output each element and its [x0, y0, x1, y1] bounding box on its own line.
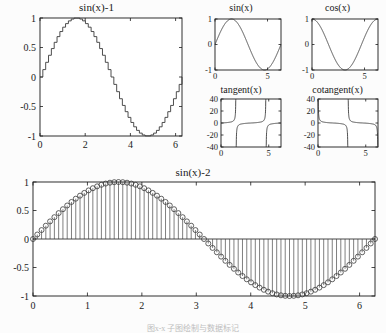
svg-text:5: 5 [267, 148, 271, 158]
svg-text:-1: -1 [205, 65, 212, 75]
svg-text:-1: -1 [302, 65, 309, 75]
subplot-title-cotangent: cotangent(x) [289, 84, 386, 95]
svg-text:1: 1 [31, 13, 36, 24]
subplot-title-tangent: tangent(x) [193, 84, 289, 95]
figure-page: sin(x)-1 0246-1-0.500.51 sin(x) 05-101 c… [0, 0, 386, 333]
subplot-cotangent: cotangent(x) 05-40-2002040 [289, 82, 386, 160]
svg-text:0.5: 0.5 [24, 42, 37, 53]
svg-text:0: 0 [208, 39, 212, 49]
svg-text:5: 5 [303, 300, 308, 311]
svg-text:0: 0 [24, 234, 29, 245]
svg-text:0: 0 [214, 118, 218, 128]
svg-text:1: 1 [305, 14, 309, 24]
svg-text:-0.5: -0.5 [20, 101, 36, 112]
svg-text:1: 1 [85, 300, 90, 311]
svg-text:4: 4 [248, 300, 253, 311]
plot-canvas-stairs-sin: 0246-1-0.500.51 [0, 0, 193, 160]
plot-canvas-stem-sin: 0123456-1-0.500.51 [0, 160, 386, 320]
subplot-title-stairs-sin: sin(x)-1 [0, 1, 193, 13]
matlab-figure: sin(x)-1 0246-1-0.500.51 sin(x) 05-101 c… [0, 0, 386, 333]
svg-text:0: 0 [311, 118, 315, 128]
svg-text:-1: -1 [21, 291, 29, 302]
svg-text:2: 2 [139, 300, 144, 311]
svg-text:5: 5 [265, 71, 269, 81]
svg-text:0: 0 [38, 139, 43, 150]
svg-text:6: 6 [357, 300, 362, 311]
svg-text:0: 0 [213, 71, 217, 81]
svg-text:0: 0 [219, 148, 223, 158]
svg-text:40: 40 [210, 94, 219, 104]
svg-text:-20: -20 [304, 130, 315, 140]
svg-text:40: 40 [307, 94, 316, 104]
svg-text:3: 3 [194, 300, 199, 311]
svg-text:6: 6 [173, 139, 178, 150]
svg-text:-0.5: -0.5 [13, 262, 29, 273]
svg-text:1: 1 [24, 177, 29, 188]
svg-text:1: 1 [208, 14, 212, 24]
subplot-title-cos: cos(x) [289, 2, 386, 13]
svg-text:-20: -20 [207, 130, 218, 140]
svg-text:0: 0 [310, 71, 314, 81]
subplot-tangent: tangent(x) 05-40-2002040 [193, 82, 289, 160]
svg-text:20: 20 [307, 106, 316, 116]
svg-text:5: 5 [364, 148, 368, 158]
svg-text:0.5: 0.5 [17, 205, 30, 216]
svg-text:20: 20 [210, 106, 219, 116]
svg-text:2: 2 [83, 139, 88, 150]
subplot-title-stem-sin: sin(x)-2 [0, 166, 386, 178]
subplot-sin: sin(x) 05-101 [193, 0, 289, 82]
svg-text:0: 0 [31, 72, 36, 83]
svg-text:0: 0 [305, 39, 309, 49]
svg-text:-1: -1 [28, 131, 36, 142]
svg-text:0: 0 [31, 300, 36, 311]
svg-text:0: 0 [316, 148, 320, 158]
svg-text:-40: -40 [304, 142, 315, 152]
svg-text:4: 4 [128, 139, 133, 150]
subplot-title-sin: sin(x) [193, 2, 289, 13]
svg-text:-40: -40 [207, 142, 218, 152]
figure-caption: 图x-x 子图绘制与数据标记 [0, 322, 386, 333]
subplot-stairs-sin: sin(x)-1 0246-1-0.500.51 [0, 0, 193, 160]
svg-text:5: 5 [362, 71, 366, 81]
subplot-stem-sin: sin(x)-2 0123456-1-0.500.51 [0, 160, 386, 320]
subplot-cos: cos(x) 05-101 [289, 0, 386, 82]
